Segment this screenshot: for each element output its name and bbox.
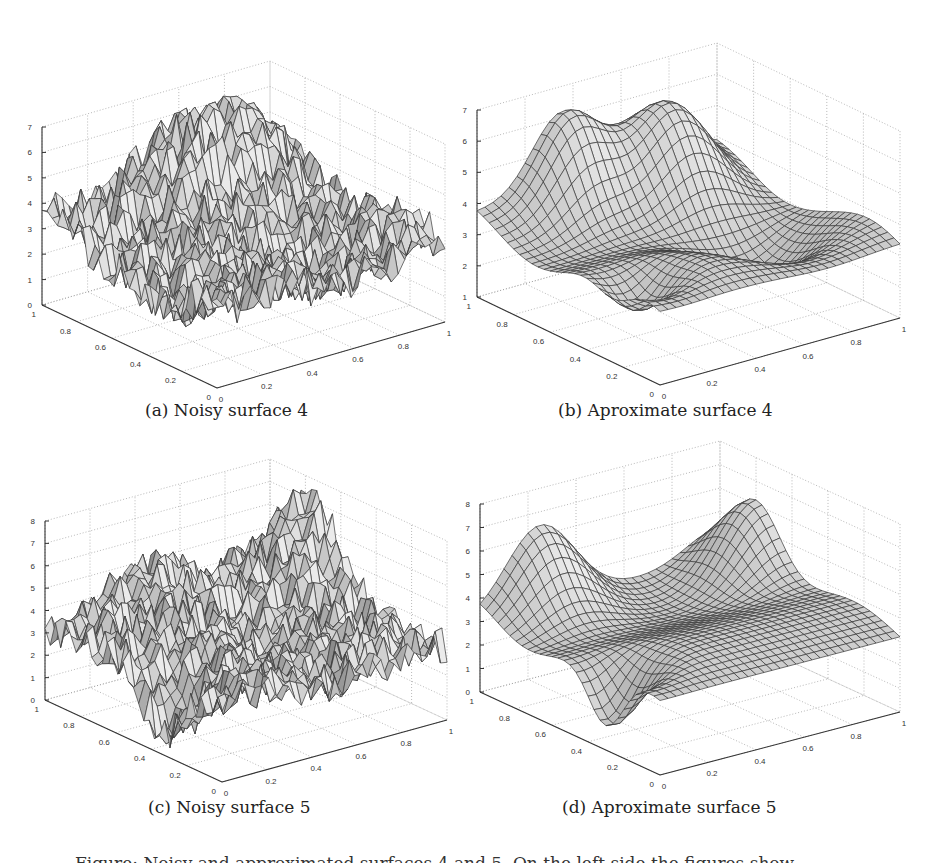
svg-text:0: 0 — [650, 780, 655, 789]
caption-d: (d) Aproximate surface 5 — [562, 797, 777, 817]
svg-text:1: 1 — [470, 697, 475, 706]
svg-text:1: 1 — [466, 665, 471, 674]
svg-text:0.8: 0.8 — [499, 714, 511, 723]
svg-text:0.6: 0.6 — [802, 744, 814, 753]
panel-d: 01234567800.20.40.60.8100.20.40.60.81 (d… — [0, 0, 940, 863]
svg-text:0.8: 0.8 — [850, 732, 862, 741]
svg-text:8: 8 — [466, 500, 471, 509]
svg-text:6: 6 — [466, 547, 471, 556]
svg-text:0: 0 — [466, 688, 471, 697]
svg-text:0.4: 0.4 — [571, 747, 583, 756]
svg-text:0: 0 — [662, 782, 667, 791]
svg-text:2: 2 — [466, 641, 471, 650]
svg-text:7: 7 — [466, 524, 471, 533]
surface-plot-d: 01234567800.20.40.60.8100.20.40.60.81 — [0, 0, 940, 863]
svg-text:4: 4 — [466, 594, 471, 603]
svg-text:0.6: 0.6 — [535, 730, 547, 739]
svg-text:3: 3 — [466, 618, 471, 627]
figure-caption-cutoff: Figure: Noisy and approximated surfaces … — [75, 852, 925, 863]
svg-text:1: 1 — [902, 719, 907, 728]
svg-text:5: 5 — [466, 571, 471, 580]
svg-text:0.4: 0.4 — [754, 757, 766, 766]
svg-text:0.2: 0.2 — [607, 763, 619, 772]
svg-text:0.2: 0.2 — [706, 769, 718, 778]
